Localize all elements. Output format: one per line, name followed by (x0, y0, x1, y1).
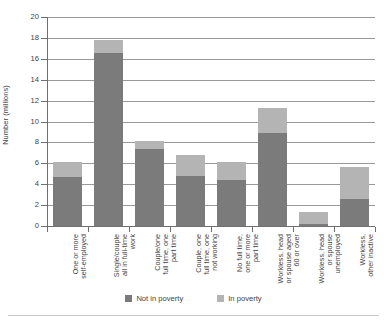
y-axis-tick (41, 80, 47, 81)
bar-segment-not-in-poverty (135, 149, 165, 226)
bar-segment-not-in-poverty (299, 224, 329, 226)
bar-segment-not-in-poverty (94, 53, 124, 226)
y-axis-tick (41, 163, 47, 164)
y-axis-tick (41, 17, 47, 18)
gridline (47, 17, 375, 18)
bar-3 (135, 141, 165, 226)
y-axis-tick (41, 38, 47, 39)
bar-segment-in-poverty (94, 40, 124, 53)
legend-item-not-in-poverty: Not in poverty (125, 294, 183, 303)
x-axis-tick (211, 227, 212, 232)
bar-segment-not-in-poverty (176, 176, 206, 226)
bar-6 (258, 108, 288, 226)
legend-swatch-icon (217, 295, 224, 302)
legend-item-in-poverty: In poverty (217, 294, 261, 303)
bar-chart-figure: Number (millions) 02468101214161820One o… (0, 0, 387, 323)
gridline (47, 38, 375, 39)
y-axis-tick (41, 59, 47, 60)
x-axis-tick (252, 227, 253, 232)
x-axis-tick (170, 227, 171, 232)
y-axis-tick-label: 12 (20, 97, 39, 105)
bar-segment-not-in-poverty (53, 177, 83, 226)
legend-label: In poverty (228, 294, 261, 303)
bar-2 (94, 40, 124, 226)
bar-4 (176, 155, 206, 226)
bar-1 (53, 162, 83, 226)
y-axis-tick-label: 0 (20, 222, 39, 230)
x-axis-tick (88, 227, 89, 232)
y-axis-tick (41, 142, 47, 143)
bar-7 (299, 212, 329, 226)
bar-segment-in-poverty (53, 162, 83, 177)
y-axis-spine (47, 17, 48, 227)
y-axis-tick-label: 6 (20, 159, 39, 167)
x-axis-tick (129, 227, 130, 232)
x-axis-tick (375, 227, 376, 232)
y-axis-tick-label: 4 (20, 180, 39, 188)
y-axis-tick-label: 18 (20, 34, 39, 42)
bar-segment-not-in-poverty (258, 133, 288, 226)
y-axis-tick (41, 205, 47, 206)
bar-segment-in-poverty (176, 155, 206, 176)
plot-area (47, 17, 375, 226)
bar-segment-in-poverty (217, 162, 247, 180)
y-axis-tick-label: 10 (20, 118, 39, 126)
bar-segment-in-poverty (340, 167, 370, 198)
y-axis-title: Number (millions) (1, 60, 15, 170)
y-axis-tick (41, 184, 47, 185)
bar-5 (217, 162, 247, 226)
chart-legend: Not in poverty In poverty (0, 294, 387, 303)
bar-segment-not-in-poverty (217, 180, 247, 226)
bar-segment-in-poverty (299, 212, 329, 223)
y-axis-tick-label: 16 (20, 55, 39, 63)
footer-divider (8, 315, 379, 316)
bar-segment-not-in-poverty (340, 199, 370, 226)
bar-segment-in-poverty (258, 108, 288, 133)
y-axis-tick-label: 14 (20, 76, 39, 84)
x-axis-tick (334, 227, 335, 232)
bar-8 (340, 167, 370, 226)
x-axis-tick (47, 227, 48, 232)
legend-label: Not in poverty (136, 294, 183, 303)
legend-swatch-icon (125, 295, 132, 302)
bar-segment-in-poverty (135, 141, 165, 148)
y-axis-tick-label: 2 (20, 201, 39, 209)
y-axis-tick (41, 122, 47, 123)
y-axis-tick (41, 101, 47, 102)
x-axis-tick (293, 227, 294, 232)
y-axis-tick-label: 20 (20, 13, 39, 21)
y-axis-tick-label: 8 (20, 138, 39, 146)
